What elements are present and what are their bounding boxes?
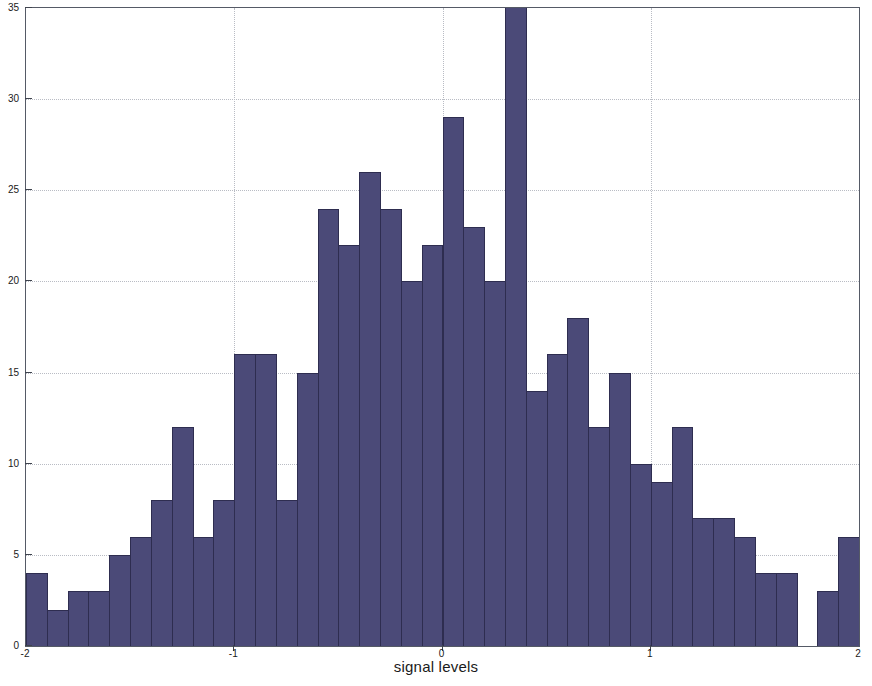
y-tick-mark	[25, 645, 32, 646]
y-tick-mark	[25, 372, 32, 373]
y-tick-label: 10	[0, 457, 19, 468]
histogram-bar	[817, 591, 839, 646]
histogram-bar	[151, 500, 173, 646]
histogram-bar	[26, 573, 48, 646]
histogram-bar	[422, 245, 444, 646]
y-tick-mark	[25, 554, 32, 555]
histogram-bar	[88, 591, 110, 646]
histogram-bar	[630, 464, 652, 646]
y-tick-mark	[25, 189, 32, 190]
histogram-bar	[484, 281, 506, 646]
histogram-bar	[734, 537, 756, 646]
y-tick-label: 30	[0, 93, 19, 104]
histogram-bar	[109, 555, 131, 646]
histogram-bar	[318, 209, 340, 646]
y-tick-label: 15	[0, 366, 19, 377]
histogram-bar	[213, 500, 235, 646]
histogram-bar	[401, 281, 423, 646]
y-tick-label: 25	[0, 184, 19, 195]
y-tick-mark	[25, 280, 32, 281]
histogram-bar	[588, 427, 610, 646]
histogram-bar	[672, 427, 694, 646]
x-axis-label: signal levels	[0, 658, 872, 675]
y-tick-mark	[25, 98, 32, 99]
histogram-bar	[526, 391, 548, 646]
y-tick-label: 35	[0, 2, 19, 13]
histogram-bar	[47, 610, 69, 646]
histogram-bar	[234, 354, 256, 646]
histogram-bar	[68, 591, 90, 646]
y-tick-label: 20	[0, 275, 19, 286]
histogram-bar	[193, 537, 215, 646]
histogram-bar	[443, 117, 465, 646]
y-tick-label: 5	[0, 548, 19, 559]
histogram-bar	[463, 227, 485, 646]
histogram-bar	[547, 354, 569, 646]
histogram-bar	[276, 500, 298, 646]
histogram-bar	[609, 373, 631, 646]
histogram-bar	[505, 8, 527, 646]
histogram-bar	[297, 373, 319, 646]
histogram-bar	[338, 245, 360, 646]
histogram-bar	[838, 537, 860, 646]
histogram-bar	[380, 209, 402, 646]
histogram-bar	[776, 573, 798, 646]
histogram-bar	[713, 518, 735, 646]
histogram-bar	[255, 354, 277, 646]
histogram-figure: number of occurance 05101520253035 -2-10…	[0, 0, 872, 686]
histogram-bar	[567, 318, 589, 646]
histogram-bar	[755, 573, 777, 646]
histogram-bar	[651, 482, 673, 646]
histogram-bar	[359, 172, 381, 646]
histogram-bar	[692, 518, 714, 646]
y-tick-mark	[25, 7, 32, 8]
histogram-bar	[172, 427, 194, 646]
y-tick-mark	[25, 463, 32, 464]
histogram-bar	[130, 537, 152, 646]
plot-area	[25, 7, 860, 647]
